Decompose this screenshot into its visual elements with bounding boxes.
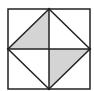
vertex-dot-top	[48, 8, 50, 10]
vertex-dot-left	[7, 48, 9, 50]
square-diamond-diagram	[0, 0, 94, 91]
vertex-dot-right	[89, 48, 91, 50]
vertex-dot-bottom	[48, 88, 50, 90]
